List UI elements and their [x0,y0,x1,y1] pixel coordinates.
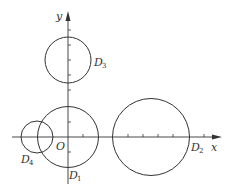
svg-text:3: 3 [102,62,106,70]
x-axis-arrow-icon [212,135,222,140]
svg-text:2: 2 [199,147,203,155]
diagram-canvas: y x O D 3 D 4 D 1 D 2 [0,0,230,193]
y-axis-label: y [55,10,63,23]
label-d2: D 2 [190,141,203,155]
coordinate-diagram: y x O D 3 D 4 D 1 D 2 [0,0,230,193]
x-axis [12,134,222,140]
origin-label: O [56,140,65,153]
svg-text:1: 1 [77,175,81,183]
label-d3: D 3 [93,56,106,70]
x-axis-label: x [211,141,218,154]
label-d4: D 4 [20,153,34,167]
label-d1: D 1 [68,169,81,183]
svg-text:4: 4 [29,159,34,167]
y-axis-arrow-icon [66,11,71,21]
